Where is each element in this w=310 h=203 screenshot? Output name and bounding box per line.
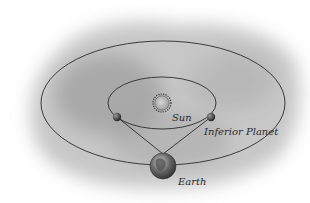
earth-label: Earth: [177, 176, 207, 187]
sun-label: Sun: [172, 112, 192, 123]
inferior-planet-label: Inferior Planet: [203, 126, 279, 137]
orbital-diagram: Sun Inferior Planet Earth: [0, 0, 310, 203]
inferior-planet-right-icon: [207, 113, 215, 121]
inferior-planet-left-icon: [113, 113, 121, 121]
earth-icon: [150, 153, 176, 179]
